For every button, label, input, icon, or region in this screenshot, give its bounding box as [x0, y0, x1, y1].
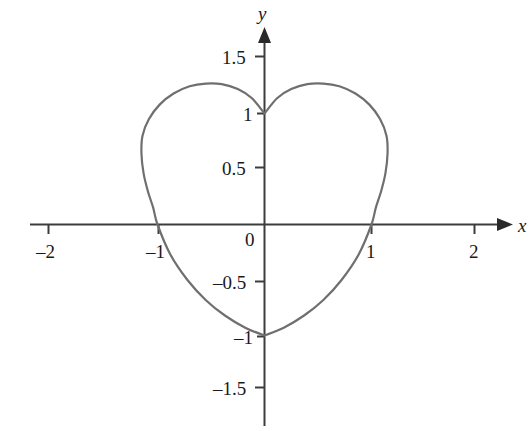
plot-area — [0, 0, 532, 431]
figure-canvas: y x 0 –2 –1 1 2 1.5 1 0.5 –0.5 –1 –1.5 — [0, 0, 532, 431]
y-tick-label--0.5: –0.5 — [213, 273, 246, 292]
x-tick-label-1: 1 — [366, 242, 376, 261]
y-tick-label-1.5: 1.5 — [222, 48, 246, 67]
y-axis-arrowhead — [258, 27, 271, 43]
y-axis-label: y — [258, 4, 266, 23]
y-tick-label--1.5: –1.5 — [213, 379, 246, 398]
origin-label: 0 — [245, 230, 255, 249]
x-tick-label-2: 2 — [469, 242, 479, 261]
y-tick-label--1: –1 — [234, 328, 253, 347]
y-tick-label-0.5: 0.5 — [222, 159, 246, 178]
x-tick-label--1: –1 — [146, 242, 165, 261]
x-tick-label--2: –2 — [36, 242, 55, 261]
x-axis-label: x — [518, 216, 526, 235]
x-axis-arrowhead — [497, 218, 513, 231]
y-tick-label-1: 1 — [243, 105, 253, 124]
